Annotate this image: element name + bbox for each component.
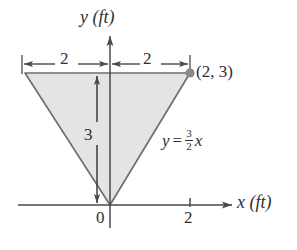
point-marker-2-3 <box>185 68 194 77</box>
equation-lhs: y <box>162 132 170 149</box>
dimension-label-left: 2 <box>60 50 69 67</box>
equation-fraction: 3 2 <box>185 128 193 152</box>
dimension-label-height: 3 <box>84 126 93 143</box>
equation-numerator: 3 <box>185 128 193 140</box>
point-label-2-3: (2, 3) <box>196 63 233 80</box>
equation-equals: = <box>173 132 183 149</box>
x-tick-label-2: 2 <box>184 209 193 226</box>
figure-canvas <box>0 0 297 250</box>
equation-label: y = 3 2 x <box>162 128 202 152</box>
origin-label: 0 <box>96 209 105 226</box>
equation-denominator: 2 <box>185 140 193 153</box>
x-axis-label: x (ft) <box>237 193 271 211</box>
equation-variable: x <box>195 132 203 149</box>
y-axis-label: y (ft) <box>80 8 114 26</box>
dimension-label-right: 2 <box>143 50 152 67</box>
triangle-area-figure: y (ft) x (ft) (2, 3) 2 2 3 0 2 y = 3 2 x <box>0 0 297 250</box>
